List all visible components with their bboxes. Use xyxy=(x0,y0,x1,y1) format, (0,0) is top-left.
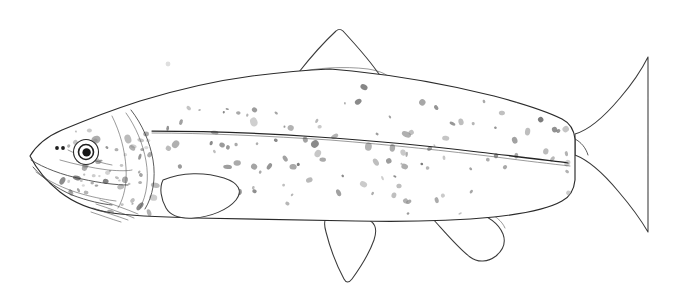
head-spot xyxy=(128,183,131,185)
body-spot xyxy=(524,76,532,86)
head-spot xyxy=(87,128,92,132)
body-spot xyxy=(544,103,552,112)
pelvic-fin-group xyxy=(325,216,376,282)
caudal-fin-group xyxy=(575,57,648,232)
head-spot xyxy=(144,146,148,149)
head-spot xyxy=(92,174,96,177)
scan-artifact-speck xyxy=(166,62,171,67)
trout-drawing-svg xyxy=(0,0,686,293)
head-spot xyxy=(115,148,119,151)
body-spot xyxy=(477,83,482,88)
body-spot xyxy=(520,84,524,88)
fish-illustration-figure: Trout lateral view line drawing trout le… xyxy=(0,0,686,293)
nostril-1 xyxy=(55,146,59,150)
head-spot xyxy=(90,182,94,185)
head-spot xyxy=(118,179,121,181)
body-outline xyxy=(30,69,575,221)
head-spot xyxy=(120,164,124,167)
head-spot xyxy=(98,175,101,177)
head-spot xyxy=(80,180,83,182)
head-spot xyxy=(138,181,142,184)
head-spot xyxy=(123,153,127,156)
caudal-fin xyxy=(575,57,648,232)
eye xyxy=(74,140,99,165)
head-spot xyxy=(82,184,85,186)
pelvic-fin xyxy=(325,216,376,282)
eye-pupil xyxy=(82,148,90,156)
nostril-2 xyxy=(61,146,65,150)
